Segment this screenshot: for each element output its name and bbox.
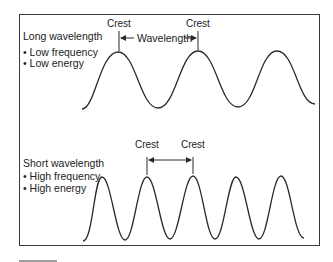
crest-label: Crest: [186, 18, 210, 30]
crest-label: Crest: [107, 18, 131, 30]
short-wave: [83, 176, 304, 241]
crest-label: Crest: [135, 139, 159, 151]
long-bullet-energy: • Low energy: [23, 57, 84, 69]
short-wavelength-title: Short wavelength: [23, 157, 104, 169]
short-bullet-frequency: • High frequency: [23, 170, 100, 182]
wavelength-label: Wavelength: [137, 32, 192, 44]
short-bullet-energy: • High energy: [23, 182, 86, 194]
crest-label: Crest: [181, 139, 205, 151]
long-wavelength-title: Long wavelength: [23, 30, 102, 42]
long-wave: [82, 51, 315, 109]
